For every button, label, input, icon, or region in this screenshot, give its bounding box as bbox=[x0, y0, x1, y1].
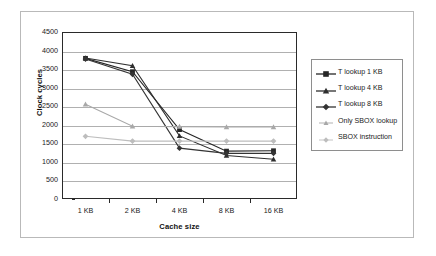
legend-item-1[interactable]: T lookup 1 KB bbox=[315, 64, 399, 80]
data-point-marker bbox=[271, 138, 277, 144]
x-tick-mark bbox=[250, 199, 251, 203]
series-4 bbox=[83, 102, 277, 130]
x-axis-ticks: 1 KB2 KB4 KB8 KB16 KB bbox=[62, 207, 297, 219]
x-tick-mark bbox=[156, 199, 157, 203]
legend-label: SBOX instruction bbox=[337, 134, 392, 141]
y-tick-label: 4500 bbox=[18, 28, 58, 35]
legend-label: Only SBOX lookup bbox=[337, 118, 397, 125]
legend-marker-icon bbox=[315, 83, 337, 95]
chart-series-layer bbox=[62, 32, 297, 199]
x-tick-label: 8 KB bbox=[205, 207, 249, 214]
data-point-marker bbox=[224, 138, 230, 144]
data-point-marker bbox=[83, 133, 89, 139]
data-point-marker bbox=[323, 104, 330, 111]
y-axis-title: Clock cycles bbox=[35, 48, 44, 138]
x-axis-title: Cache size bbox=[62, 222, 297, 231]
x-tick-label: 4 KB bbox=[158, 207, 202, 214]
series-line bbox=[86, 58, 274, 159]
y-tick-label: 500 bbox=[18, 176, 58, 183]
x-tick-label: 16 KB bbox=[252, 207, 296, 214]
chart-figure: 050010001500200025003000350040004500 Clo… bbox=[0, 0, 436, 256]
legend-item-3[interactable]: T lookup 8 KB bbox=[315, 97, 399, 113]
legend-item-5[interactable]: SBOX instruction bbox=[315, 130, 399, 146]
legend-label: T lookup 8 KB bbox=[337, 101, 382, 108]
legend-marker-icon bbox=[315, 132, 337, 144]
data-point-marker bbox=[177, 138, 183, 144]
data-point-marker bbox=[130, 138, 136, 144]
series-line bbox=[86, 104, 274, 127]
legend-marker-icon bbox=[315, 115, 337, 127]
y-tick-label: 0 bbox=[18, 195, 58, 202]
legend-item-4[interactable]: Only SBOX lookup bbox=[315, 113, 399, 129]
data-point-marker bbox=[323, 71, 329, 77]
data-point-marker bbox=[83, 102, 89, 107]
x-tick-mark bbox=[109, 199, 110, 203]
x-tick-mark bbox=[203, 199, 204, 203]
data-point-marker bbox=[323, 137, 328, 142]
y-tick-label: 1000 bbox=[18, 158, 58, 165]
chart-legend: T lookup 1 KBT lookup 4 KBT lookup 8 KBO… bbox=[311, 59, 403, 151]
legend-label: T lookup 4 KB bbox=[337, 85, 382, 92]
data-point-marker bbox=[177, 145, 183, 151]
legend-marker-icon bbox=[315, 99, 337, 111]
legend-item-2[interactable]: T lookup 4 KB bbox=[315, 80, 399, 96]
x-tick-label: 1 KB bbox=[64, 207, 108, 214]
y-tick-mark bbox=[72, 199, 75, 200]
legend-label: T lookup 1 KB bbox=[337, 69, 382, 76]
legend-marker-icon bbox=[315, 66, 337, 78]
x-tick-label: 2 KB bbox=[111, 207, 155, 214]
y-tick-label: 1500 bbox=[18, 139, 58, 146]
